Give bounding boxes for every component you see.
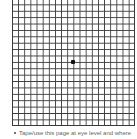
instruction-item: Tape/use this page at eye level and wher…	[12, 129, 137, 137]
center-fixation-dot	[71, 60, 75, 64]
bullet-icon	[14, 132, 16, 134]
instruction-text: Tape/use this page at eye level and wher…	[19, 130, 131, 136]
